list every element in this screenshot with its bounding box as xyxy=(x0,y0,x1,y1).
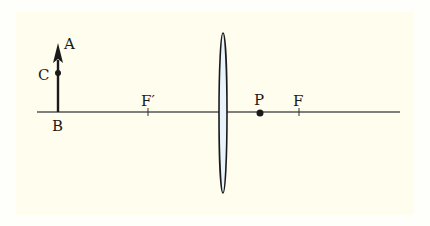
label-f: F xyxy=(293,92,303,110)
point-p-marker xyxy=(257,110,264,117)
converging-lens xyxy=(219,33,227,193)
point-c-marker xyxy=(55,70,61,76)
label-f-prime: F′ xyxy=(141,92,155,110)
label-b: B xyxy=(52,117,63,135)
label-c: C xyxy=(38,66,49,84)
lens-diagram: A C B F′ P F xyxy=(0,0,430,226)
label-a: A xyxy=(63,35,75,53)
label-p: P xyxy=(254,91,264,109)
object-arrow xyxy=(53,43,63,112)
